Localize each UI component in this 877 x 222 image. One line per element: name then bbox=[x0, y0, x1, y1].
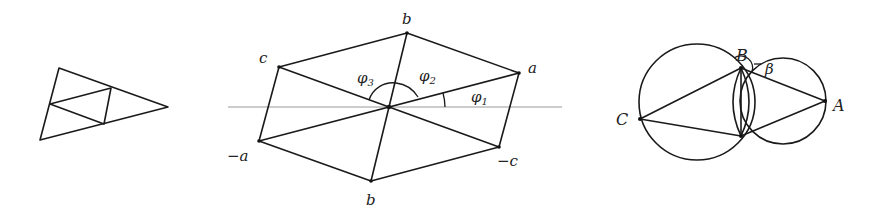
segment-BA bbox=[741, 68, 825, 101]
label-phi2: φ2 bbox=[419, 67, 436, 86]
hexagon-diagram: b a −c b −a c φ1 φ2 φ3 bbox=[227, 10, 562, 209]
vertex-a bbox=[517, 71, 521, 75]
label-neg-a: −a bbox=[227, 147, 249, 165]
label-b-bottom: b bbox=[366, 191, 376, 209]
label-A: A bbox=[831, 96, 845, 115]
vertex-c bbox=[277, 65, 281, 69]
vertex-b-top bbox=[405, 31, 409, 35]
vertex-neg-c bbox=[497, 145, 501, 149]
point-C bbox=[638, 117, 642, 121]
angle-arc-phi2 bbox=[396, 83, 418, 97]
point-lower-intersection bbox=[739, 134, 743, 138]
label-b-top: b bbox=[402, 10, 412, 28]
label-neg-c: −c bbox=[497, 152, 519, 170]
label-phi1: φ1 bbox=[471, 88, 488, 107]
figure-canvas: b a −c b −a c φ1 φ2 φ3 B A C β bbox=[0, 0, 877, 222]
point-A bbox=[823, 99, 827, 103]
outer-triangle bbox=[40, 68, 168, 140]
label-C: C bbox=[616, 110, 628, 129]
angle-arc-phi1 bbox=[443, 93, 445, 107]
label-a: a bbox=[528, 59, 537, 77]
subdivided-triangle bbox=[40, 68, 168, 140]
segment-BC bbox=[640, 68, 741, 119]
point-B bbox=[739, 66, 743, 70]
segment-DC bbox=[640, 119, 741, 136]
vertex-b-bottom bbox=[369, 179, 373, 183]
segment-DA bbox=[741, 101, 825, 136]
label-c: c bbox=[259, 49, 268, 67]
label-B: B bbox=[735, 46, 748, 65]
circles-diagram: B A C β bbox=[616, 44, 845, 160]
label-beta: β bbox=[764, 60, 774, 78]
center-point bbox=[387, 105, 391, 109]
label-phi3: φ3 bbox=[357, 69, 374, 88]
midpoint-triangle bbox=[50, 88, 111, 124]
vertex-neg-a bbox=[257, 139, 261, 143]
